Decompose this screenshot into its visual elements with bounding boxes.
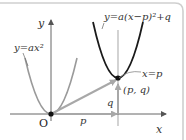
x-axis-label: x [156, 123, 163, 136]
origin-point [48, 111, 53, 116]
base-parabola-label: y=ax² [13, 42, 44, 53]
parabola-translation-diagram: y x O y=ax² y=a(x−p)²+q x=p (p, q) p q [0, 0, 186, 140]
translated-parabola-label: y=a(x−p)²+q [103, 11, 171, 22]
base-label-leader [23, 53, 28, 66]
horizontal-shift-label: p [80, 115, 87, 126]
vertex-label: (p, q) [123, 84, 150, 95]
y-axis-label: y [37, 17, 45, 30]
axis-of-symmetry-label: x=p [142, 68, 163, 79]
origin-label: O [39, 117, 48, 130]
vertex-point [115, 75, 120, 80]
translated-label-leader [102, 23, 104, 29]
vertical-shift-label: q [107, 97, 113, 108]
